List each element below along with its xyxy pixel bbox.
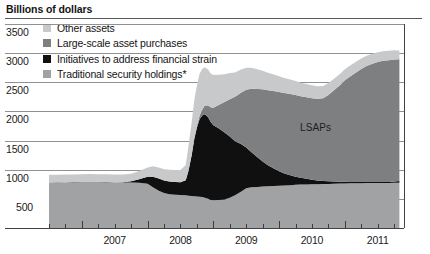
x-tick-year [279,221,280,228]
plot-area [0,0,430,254]
x-tick-label-2011: 2011 [358,234,398,246]
x-tick-label-2007: 2007 [95,234,135,246]
x-tick [131,224,132,228]
x-tick-year [345,221,346,228]
x-tick-label-2008: 2008 [160,234,200,246]
x-tick [49,224,50,228]
x-tick [246,224,247,228]
y-axis-line-right [404,24,405,228]
x-tick [312,224,313,228]
chart-container: Billions of dollars Other assets Large-s… [0,0,430,254]
x-tick [180,224,181,228]
x-tick-year [82,221,83,228]
x-tick [164,224,165,228]
x-tick [65,224,66,228]
x-axis-line [5,228,404,229]
x-tick [98,224,99,228]
x-tick-label-2009: 2009 [226,234,266,246]
x-tick [328,224,329,228]
x-tick-year [148,221,149,228]
x-tick [263,224,264,228]
x-tick [378,224,379,228]
x-tick [115,224,116,228]
x-tick-label-2010: 2010 [292,234,332,246]
x-tick [394,224,395,228]
x-tick-year [213,221,214,228]
x-tick [296,224,297,228]
x-tick [361,224,362,228]
x-tick [230,224,231,228]
annotation-lsaps: LSAPs [300,122,331,133]
x-tick [197,224,198,228]
